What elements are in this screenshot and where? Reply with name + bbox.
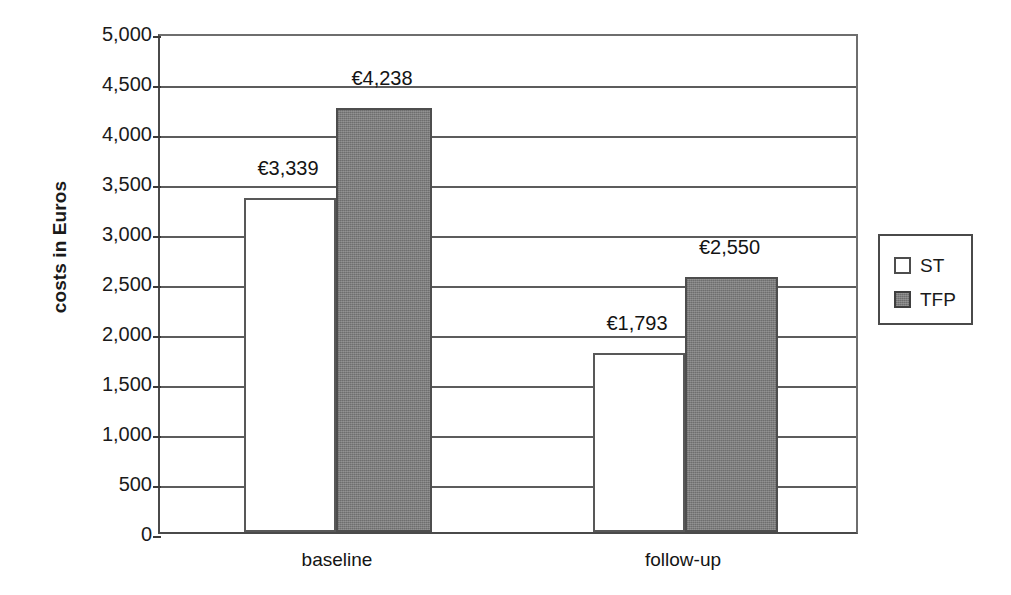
legend-label-st: ST [920,256,944,275]
y-axis-tick-labels: 5,0004,5004,0003,5003,0002,5002,0001,500… [0,0,152,595]
y-tick-mark-4000 [153,136,161,138]
y-tick-label-2500: 2,500 [0,274,152,294]
y-tick-label-4500: 4,500 [0,74,152,94]
y-tick-label-5000: 5,000 [0,24,152,44]
bar-baseline-st[interactable] [244,198,336,532]
legend-swatch-st-icon [894,257,911,274]
y-tick-label-0: 0 [0,524,152,544]
data-label-baseline-tfp: €4,238 [351,68,412,88]
y-tick-label-500: 500 [0,474,152,494]
gridline-3500 [160,186,856,188]
y-tick-mark-3500 [153,186,161,188]
gridline-4000 [160,136,856,138]
y-tick-label-4000: 4,000 [0,124,152,144]
y-tick-mark-4500 [153,86,161,88]
y-tick-mark-1000 [153,436,161,438]
y-tick-mark-500 [153,486,161,488]
y-tick-mark-3000 [153,236,161,238]
data-label-followup-st: €1,793 [606,313,667,333]
y-tick-label-2000: 2,000 [0,324,152,344]
gridline-4500 [160,86,856,88]
data-label-baseline-st: €3,339 [257,158,318,178]
y-tick-mark-0 [153,536,161,538]
y-tick-mark-2500 [153,286,161,288]
bar-baseline-tfp[interactable] [336,108,432,532]
y-tick-mark-2000 [153,336,161,338]
x-tick-label-baseline: baseline [302,550,373,569]
plot-area [158,34,858,534]
legend: ST TFP [878,234,973,325]
y-tick-mark-1500 [153,386,161,388]
x-tick-label-follow-up: follow-up [645,550,721,569]
y-tick-label-1500: 1,500 [0,374,152,394]
y-tick-label-3000: 3,000 [0,224,152,244]
y-tick-label-3500: 3,500 [0,174,152,194]
legend-label-tfp: TFP [920,290,956,309]
data-label-followup-tfp: €2,550 [699,237,760,257]
y-tick-mark-5000 [153,36,161,38]
legend-item-st[interactable]: ST [894,248,971,282]
legend-swatch-tfp-icon [894,291,911,308]
bar-chart: costs in Euros 5,0004,5004,0003,5003,000… [0,0,1011,595]
bar-followup-st[interactable] [593,353,685,532]
y-tick-label-1000: 1,000 [0,424,152,444]
legend-item-tfp[interactable]: TFP [894,282,971,316]
bar-followup-tfp[interactable] [685,277,778,532]
